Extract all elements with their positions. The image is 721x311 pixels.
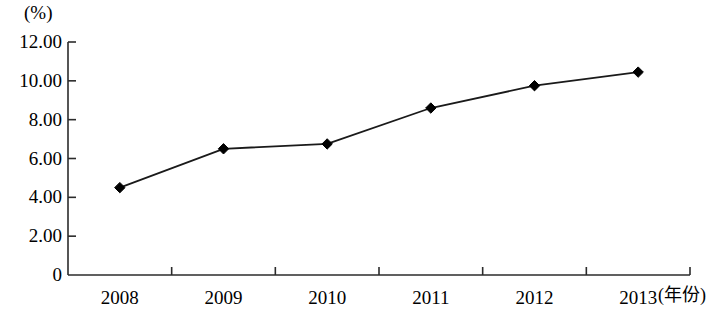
x-axis-tick-label: 2012 [483,288,587,307]
line-chart: (%) 02.004.006.008.0010.0012.00 20082009… [0,0,721,311]
y-axis-tick-label: 10.00 [0,71,62,90]
data-point-marker [322,139,332,149]
data-point-marker [115,182,125,192]
y-axis-tick-label: 12.00 [0,32,62,51]
y-axis-tick-label: 8.00 [0,110,62,129]
x-axis-tick-label: 2010 [275,288,379,307]
data-point-marker [633,67,643,77]
data-point-marker [426,103,436,113]
x-axis-tick-label: 2008 [68,288,172,307]
x-axis-title: (年份) [658,286,706,305]
y-axis-tick-label: 6.00 [0,149,62,168]
data-point-markers [115,67,644,193]
data-series-line [120,72,638,188]
x-axis-tick-label: 2011 [379,288,483,307]
data-point-marker [218,144,228,154]
y-axis-tick-label: 2.00 [0,226,62,245]
y-axis-tick-label: 4.00 [0,187,62,206]
x-axis-tick-label: 2009 [172,288,276,307]
y-axis-tick-label: 0 [0,265,62,284]
chart-plot-area [0,0,721,311]
data-point-marker [529,80,539,90]
